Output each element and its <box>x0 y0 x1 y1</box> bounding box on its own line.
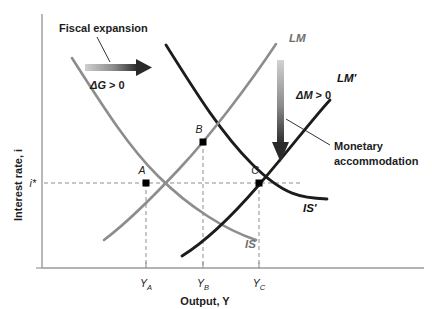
y-tick-label-istar: i* <box>30 177 37 189</box>
curves-group <box>72 44 330 256</box>
delta-g-symbol: ΔG <box>89 79 106 91</box>
fiscal-expansion-label: Fiscal expansion <box>59 22 148 34</box>
monetary-accommodation-label-line1: Monetary <box>334 140 384 152</box>
curve-lm-prime <box>182 100 330 256</box>
monetary-accommodation-leader-line <box>286 119 330 145</box>
delta-m-relation: > 0 <box>313 89 332 101</box>
delta-g-arrow-icon <box>85 59 152 76</box>
delta-g-annotation: ΔG > 0 <box>89 79 125 91</box>
fiscal-expansion-leader-line <box>97 37 110 62</box>
point-c-label: C <box>251 164 259 176</box>
delta-m-annotation: ΔM > 0 <box>295 89 331 101</box>
delta-m-arrow-icon <box>272 60 289 162</box>
x-axis-label: Output, Y <box>180 295 230 307</box>
x-tick-label-yb: YB <box>197 277 209 292</box>
curve-label-is-prime: IS' <box>303 202 318 214</box>
curve-label-lm-prime: LM' <box>337 72 358 84</box>
x-tick-label-yb-sub: B <box>204 283 209 292</box>
fiscal-expansion-annotation: Fiscal expansion ΔG > 0 <box>59 22 152 91</box>
is-lm-diagram: A B C LM LM' IS IS' Fiscal expansion ΔG … <box>0 0 432 309</box>
x-tick-label-yc: YC <box>253 277 266 292</box>
curve-label-is: IS <box>245 238 256 250</box>
point-c-marker <box>256 180 263 187</box>
x-tick-label-yc-sub: C <box>260 283 266 292</box>
y-axis-label: Interest rate, i <box>12 149 24 221</box>
is-lm-chart-canvas: A B C LM LM' IS IS' Fiscal expansion ΔG … <box>0 0 432 309</box>
monetary-accommodation-label-line2: accommodation <box>334 155 419 167</box>
point-a-marker <box>143 180 150 187</box>
curve-label-lm: LM <box>289 32 306 44</box>
delta-g-relation: > 0 <box>106 79 125 91</box>
delta-m-symbol: ΔM <box>295 89 313 101</box>
x-tick-label-ya: YA <box>140 277 152 292</box>
curve-is-prime <box>166 45 327 199</box>
point-a-label: A <box>137 164 145 176</box>
x-tick-label-ya-sub: A <box>146 283 152 292</box>
point-b-label: B <box>195 123 202 135</box>
point-b-marker <box>200 139 207 146</box>
guide-lines-group <box>44 142 300 268</box>
